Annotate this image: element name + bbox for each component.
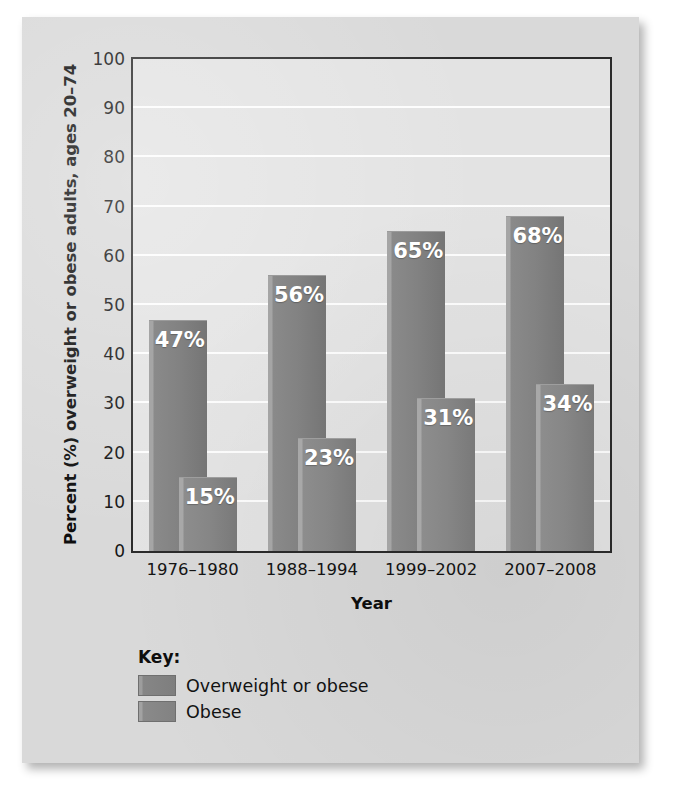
- bar-obese[interactable]: 15%: [179, 477, 237, 551]
- y-axis-tick-labels: 0102030405060708090100: [75, 57, 125, 553]
- y-tick-label: 70: [79, 197, 125, 217]
- x-axis-tick-labels: 1976–19801988–19941999–20022007–2008: [131, 560, 612, 586]
- y-tick-label: 100: [79, 49, 125, 69]
- y-tick-label: 60: [79, 246, 125, 266]
- plot-area: 47%15%56%23%65%31%68%34%: [131, 57, 612, 553]
- bar-obese[interactable]: 31%: [417, 398, 475, 551]
- chart-legend: Key: Overweight or obeseObese: [138, 647, 369, 727]
- x-axis-title: Year: [131, 594, 612, 613]
- y-tick-label: 30: [79, 393, 125, 413]
- legend-item[interactable]: Obese: [138, 701, 369, 722]
- y-tick-label: 90: [79, 98, 125, 118]
- bar-group: 47%15%: [149, 59, 237, 551]
- scanned-page-card: Percent (%) overweight or obese adults, …: [22, 17, 639, 763]
- bar-group: 68%34%: [506, 59, 594, 551]
- bar-value-label: 34%: [542, 392, 592, 416]
- legend-title: Key:: [138, 647, 369, 667]
- x-tick-label: 1988–1994: [252, 560, 371, 579]
- x-tick-label: 2007–2008: [491, 560, 610, 579]
- y-tick-label: 0: [79, 541, 125, 561]
- bar-group: 56%23%: [268, 59, 356, 551]
- bar-value-label: 47%: [155, 328, 205, 352]
- y-tick-label: 20: [79, 443, 125, 463]
- bar-chart-figure: Percent (%) overweight or obese adults, …: [22, 17, 639, 763]
- bar-obese[interactable]: 34%: [536, 384, 594, 551]
- legend-label: Overweight or obese: [186, 676, 369, 696]
- x-tick-label: 1999–2002: [372, 560, 491, 579]
- legend-label: Obese: [186, 702, 242, 722]
- y-tick-label: 40: [79, 344, 125, 364]
- bar-value-label: 23%: [304, 446, 354, 470]
- bar-group: 65%31%: [387, 59, 475, 551]
- legend-rows: Overweight or obeseObese: [138, 675, 369, 722]
- bar-value-label: 68%: [512, 224, 562, 248]
- legend-swatch-overweight-or-obese: [138, 675, 176, 696]
- y-tick-label: 80: [79, 147, 125, 167]
- y-tick-label: 50: [79, 295, 125, 315]
- bar-value-label: 56%: [274, 283, 324, 307]
- bar-value-label: 31%: [423, 406, 473, 430]
- legend-swatch-obese: [138, 701, 176, 722]
- bar-obese[interactable]: 23%: [298, 438, 356, 551]
- legend-item[interactable]: Overweight or obese: [138, 675, 369, 696]
- y-tick-label: 10: [79, 492, 125, 512]
- x-tick-label: 1976–1980: [133, 560, 252, 579]
- plot-inner: 47%15%56%23%65%31%68%34%: [133, 59, 610, 551]
- bar-value-label: 15%: [185, 485, 235, 509]
- bar-value-label: 65%: [393, 239, 443, 263]
